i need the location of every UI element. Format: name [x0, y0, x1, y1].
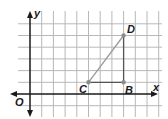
coordinate-plane: y x O C B D — [0, 0, 168, 119]
point-d — [121, 33, 125, 37]
point-label-d: D — [127, 24, 135, 35]
point-label-c: C — [79, 84, 87, 95]
y-axis-arrow-up-icon — [27, 11, 33, 18]
origin-label: O — [15, 97, 24, 108]
graph-svg — [0, 0, 168, 119]
point-label-b: B — [125, 85, 133, 96]
x-axis-label: x — [153, 82, 159, 93]
grid-lines — [18, 11, 162, 117]
y-axis-arrow-down-icon — [27, 110, 33, 117]
y-axis-label: y — [34, 8, 40, 19]
